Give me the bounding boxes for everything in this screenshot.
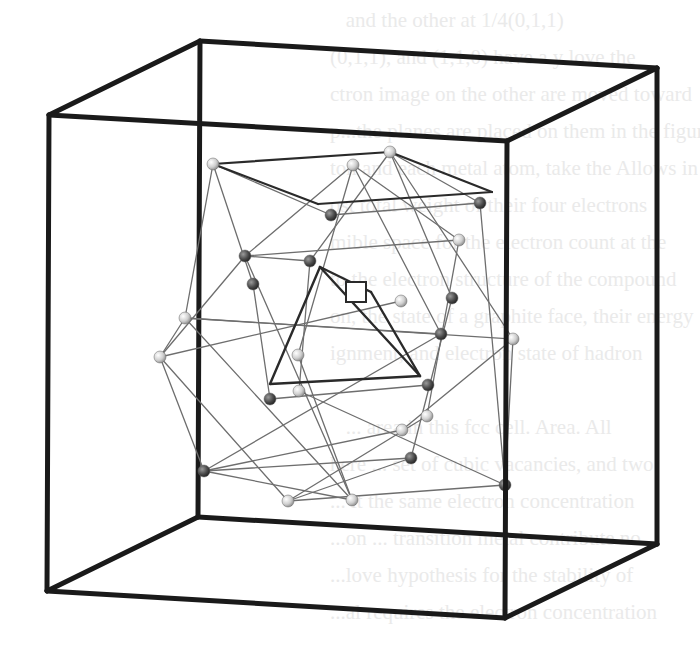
bond-line	[411, 298, 452, 458]
atom-sphere	[395, 295, 407, 307]
atom-sphere	[154, 351, 166, 363]
atom-sphere	[474, 197, 486, 209]
atom-sphere	[384, 146, 396, 158]
top-square-edge	[390, 152, 492, 192]
bond-line	[213, 164, 253, 284]
atom-sphere	[207, 158, 219, 170]
atom-sphere	[282, 495, 294, 507]
atom-sphere	[396, 424, 408, 436]
bond-line	[480, 203, 505, 485]
atom-sphere	[405, 452, 417, 464]
square-marker	[346, 282, 366, 302]
atom-sphere	[453, 234, 465, 246]
cube-edge	[49, 115, 507, 141]
cube-edge	[505, 544, 657, 618]
bond-line	[185, 318, 441, 334]
atom-spheres	[154, 146, 519, 507]
cube-edge	[198, 41, 200, 517]
atom-sphere	[179, 312, 191, 324]
atom-sphere	[446, 292, 458, 304]
atom-sphere	[292, 349, 304, 361]
cube-front-edges	[47, 41, 657, 618]
top-square-edge	[213, 152, 390, 164]
atom-sphere	[304, 255, 316, 267]
bond-line	[331, 203, 480, 215]
atom-sphere	[346, 494, 358, 506]
bond-line	[390, 152, 513, 339]
polyhedron-wireframe	[160, 152, 513, 501]
bond-line	[245, 240, 459, 256]
cube-back-edges	[198, 41, 657, 544]
cube-edge	[200, 41, 657, 68]
tetrahedron-edge	[270, 376, 420, 384]
top-square-edge	[213, 164, 318, 204]
atom-sphere	[325, 209, 337, 221]
atom-sphere	[239, 250, 251, 262]
atom-sphere	[293, 385, 305, 397]
atom-sphere	[264, 393, 276, 405]
atom-sphere	[507, 333, 519, 345]
bond-line	[160, 357, 288, 501]
cube-edge	[505, 141, 507, 618]
tetrahedron-edge	[320, 267, 420, 376]
atom-sphere	[198, 465, 210, 477]
cube-edge	[507, 68, 657, 141]
atom-sphere	[247, 278, 259, 290]
atom-sphere	[421, 410, 433, 422]
atom-sphere	[435, 328, 447, 340]
bond-line	[160, 318, 185, 357]
bond-line	[299, 391, 505, 485]
atom-sphere	[347, 159, 359, 171]
bond-line	[288, 485, 505, 501]
cube-edge	[47, 591, 505, 618]
cube-edge	[47, 115, 49, 591]
tetrahedron-edge	[371, 292, 420, 376]
cube-edge	[49, 41, 200, 115]
bond-line	[245, 256, 352, 500]
atom-sphere	[422, 379, 434, 391]
bond-line	[245, 256, 310, 261]
bond-line	[245, 165, 353, 256]
bond-line	[204, 334, 441, 471]
bond-line	[253, 284, 270, 399]
crystal-structure-figure	[0, 0, 700, 651]
cube-edge	[47, 517, 198, 591]
cube-edge	[198, 517, 657, 544]
bond-line	[160, 256, 245, 357]
bond-line	[390, 152, 452, 298]
